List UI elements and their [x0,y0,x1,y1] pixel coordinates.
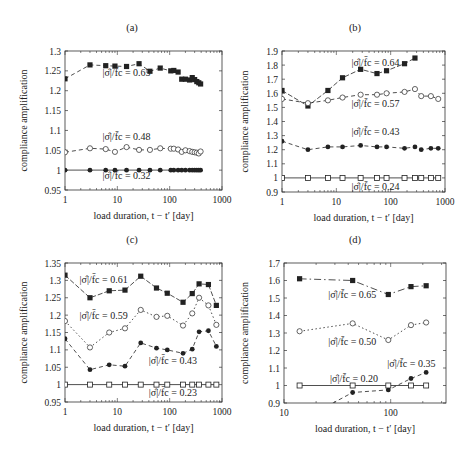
data-point [375,144,380,149]
data-point [198,81,203,86]
data-point [280,139,285,144]
data-point [384,68,389,73]
data-point [154,285,159,290]
data-point [386,292,391,297]
data-point [408,323,413,328]
x-tick-label: 10 [332,197,342,207]
x-tick-label: 1000 [213,407,232,417]
y-tick-label: 1 [275,381,280,391]
axes-frame [282,51,445,192]
data-point [197,329,202,334]
data-point [124,145,129,150]
data-point [136,147,141,152]
data-point [424,283,429,288]
data-point [402,146,407,151]
data-point [87,345,92,350]
data-point [198,149,203,154]
data-point [402,61,407,66]
data-point [123,364,128,369]
y-tick-label: 0.95 [44,186,61,196]
data-point [190,347,195,352]
data-point [297,276,302,281]
y-tick-label: 0.95 [44,398,61,408]
data-point [402,175,407,180]
y-tick-label: 1.2 [49,311,61,321]
y-tick-label: 1.7 [268,259,280,269]
data-series [280,139,441,152]
x-tick-label: 100 [163,195,178,205]
y-tick-label: 1.15 [44,106,61,116]
y-tick-label: 1.9 [266,47,278,57]
y-tick-label: 1.3 [268,329,280,339]
data-point [374,92,379,97]
data-point [402,89,407,94]
y-tick-label: 1 [273,173,278,183]
data-point [158,146,163,151]
data-point [62,76,67,81]
data-point [138,274,143,279]
data-point [103,146,108,151]
data-point [324,404,329,409]
data-point [158,65,163,70]
data-point [196,295,201,300]
data-point [206,328,211,333]
data-point [112,149,117,154]
series-annotation: |σ̂|/f̄c = 0.43 [351,126,399,137]
series-annotation: |σ̂|/f̄c = 0.64 [351,56,399,67]
panel-c: (c) compliance amplification load durati… [18,234,232,433]
series-annotation: |σ̂|/f̄c = 0.61 [80,273,128,284]
data-point [87,382,92,387]
x-axis-label-b: load duration, t − t′ [day] [313,212,413,223]
series-annotation: |σ̂|/f̄c = 0.23 [149,386,197,397]
data-point [436,146,441,151]
data-point [122,288,127,293]
panel-title-b: (b) [349,22,362,34]
data-point [214,344,219,349]
series-annotation: |σ̂|/f̄c = 0.50 [328,336,376,347]
data-point [419,147,424,152]
x-tick-label: 1000 [213,195,232,205]
data-series [280,175,441,180]
panel-title-c: (c) [126,234,138,246]
data-point [63,336,68,341]
plot-area-a: 0.9511.051.11.151.21.251.31101001000|σ̂|… [44,47,231,206]
data-point [62,273,67,278]
y-tick-label: 1.2 [49,86,61,96]
y-tick-label: 1.1 [49,126,61,136]
y-tick-label: 1.25 [44,66,61,76]
x-tick-label: 10 [279,408,289,418]
y-axis-label-c: compliance amplification [18,282,29,384]
data-point [424,320,429,325]
x-tick-label: 1000 [436,197,455,207]
series-annotation: |σ̂|/f̄c = 0.48 [102,131,150,142]
plot-area-b: 0.911.11.21.31.41.51.61.71.81.9110100100… [266,47,455,208]
data-series [62,145,203,157]
data-point [206,382,211,387]
y-tick-label: 1.1 [268,364,280,374]
plot-area-c: 0.9511.051.11.151.21.251.31.351101001000… [44,259,231,418]
data-point [107,288,112,293]
data-point [206,282,211,287]
data-point [138,307,143,312]
data-point [374,71,379,76]
data-point [436,175,441,180]
data-point [358,92,363,97]
series-annotation: |σ̂|/f̄c = 0.43 [149,354,197,365]
data-point [87,146,92,151]
data-point [88,367,93,372]
y-tick-label: 1.8 [266,61,278,71]
data-point [176,69,181,74]
y-axis-label-a: compliance amplification [18,70,29,172]
x-axis-label-a: load duration, t − t′ [day] [93,210,193,221]
x-axis-label-c: load duration, t − t′ [day] [93,422,193,433]
data-point [340,144,345,149]
panel-d: (d) compliance amplification load durati… [239,234,446,434]
data-point [165,347,170,352]
data-point [147,147,152,152]
x-axis-label-d: load duration, t − t′ [day] [315,423,415,434]
data-point [358,143,363,148]
data-point [280,175,285,180]
data-point [428,94,433,99]
data-point [306,147,311,152]
data-point [305,101,310,106]
